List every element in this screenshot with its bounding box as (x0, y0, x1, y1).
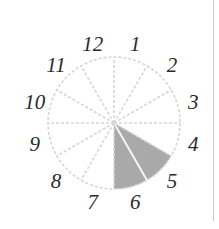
clock-label-9: 9 (30, 132, 41, 156)
clock-spoke (81, 123, 114, 180)
clock-label-7: 7 (88, 190, 100, 214)
panel-divider (213, 0, 214, 221)
clock-label-12: 12 (82, 32, 104, 56)
clock-label-3: 3 (187, 90, 199, 114)
clock-spoke (114, 90, 171, 123)
clock-label-2: 2 (167, 53, 178, 77)
clock-spoke (57, 123, 114, 156)
clock-spoke (114, 66, 147, 123)
clock-label-10: 10 (24, 90, 46, 114)
clock-label-1: 1 (130, 32, 141, 56)
clock-grid (48, 57, 180, 189)
shaded-sectors (114, 123, 171, 189)
clock-spoke (81, 66, 114, 123)
clock-label-5: 5 (167, 169, 178, 193)
clock-label-6: 6 (130, 190, 141, 214)
clock-spoke (57, 90, 114, 123)
clock-label-11: 11 (46, 53, 65, 77)
clock-diagram: 123456789101112 (0, 0, 219, 229)
clock-label-8: 8 (51, 169, 62, 193)
clock-label-4: 4 (188, 132, 199, 156)
